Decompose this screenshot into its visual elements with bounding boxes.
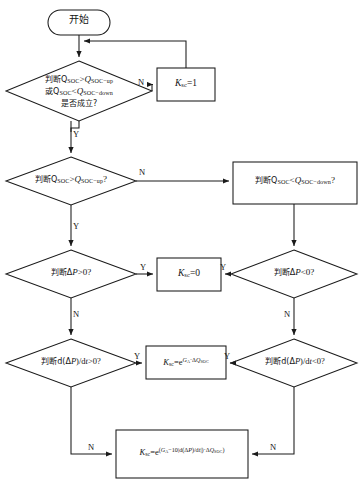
edge-decision1-n-to-ksc1 bbox=[152, 85, 153, 92]
edge-label-y-row2: Y bbox=[73, 222, 79, 231]
edge-label-n-row3-left: N bbox=[73, 310, 79, 319]
edge-label-y-row4-left: Y bbox=[134, 352, 140, 361]
edge-label-n-row4-right: N bbox=[270, 443, 276, 452]
edge-label-n-top: N bbox=[138, 78, 144, 87]
ksc-exp-full-shape bbox=[116, 430, 248, 478]
edge-label-y-row1: Y bbox=[73, 130, 79, 139]
decision-ddp-gt0-shape bbox=[6, 339, 136, 387]
decision-dp-gt0-shape bbox=[6, 250, 136, 298]
edge-ksc1-feedback bbox=[84, 41, 186, 68]
edge-label-n-row2: N bbox=[139, 168, 145, 177]
edge-label-y-row4-right: Y bbox=[224, 352, 230, 361]
decision-soc-up-shape bbox=[6, 157, 136, 205]
edge-label-y-row3-left: Y bbox=[140, 263, 146, 272]
edge-label-n-row3-right: N bbox=[284, 310, 290, 319]
decision-dp-lt0-shape bbox=[231, 250, 357, 298]
decision-soc-down-shape bbox=[233, 162, 357, 204]
start-node-shape bbox=[48, 10, 110, 35]
flowchart-canvas: 开始 判断QSOC>QSOC−up 或QSOC<QSOC−down 是否成立? … bbox=[0, 0, 364, 488]
edge-label-n-row4-left: N bbox=[88, 443, 94, 452]
flowchart-shapes-and-connectors bbox=[0, 0, 364, 488]
ksc-exp-shape bbox=[146, 346, 226, 379]
decision-soc-range-shape bbox=[6, 61, 152, 121]
ksc-0-shape bbox=[157, 258, 221, 291]
ksc-1-shape bbox=[157, 68, 215, 101]
decision-ddp-lt0-shape bbox=[231, 339, 357, 387]
edge-label-y-row3-right: Y bbox=[220, 263, 226, 272]
